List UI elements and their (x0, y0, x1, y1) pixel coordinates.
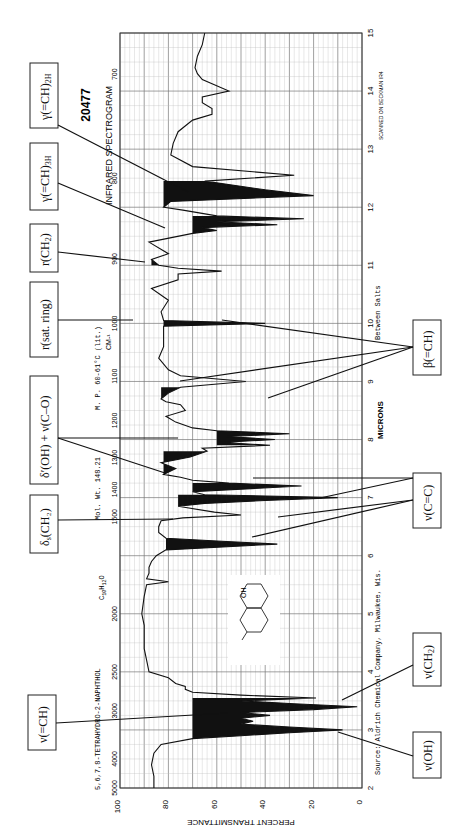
chart-grid (120, 33, 362, 788)
svg-text:r(sat. ring): r(sat. ring) (38, 299, 52, 350)
molecular-formula: C10H12O (98, 575, 108, 600)
transmittance-tick: 20 (307, 799, 316, 808)
wavenumber-tick: 3000 (111, 703, 118, 719)
structure-oh-label: OH (240, 588, 247, 599)
wavenumber-tick: 1400 (111, 482, 118, 498)
annotation-gamma-2h: γ(=CH)2H (30, 63, 58, 128)
transmittance-tick: 100 (113, 799, 122, 813)
annotation-delta-s-ch2: δs(CH₂) (30, 495, 58, 553)
wavenumber-tick: 2500 (111, 664, 118, 680)
svg-text:ν(OH): ν(OH) (421, 740, 435, 771)
annotation-r-sat-ring: r(sat. ring) (30, 282, 58, 357)
transmittance-tick: 60 (210, 799, 219, 808)
wavenumber-tick: 5000 (111, 780, 118, 796)
molecule-structure: OH (228, 575, 280, 665)
svg-text:ν(C=C): ν(C=C) (421, 485, 435, 521)
annotation-nu-oh: ν(OH) (413, 732, 441, 778)
spectrum-chart: 2345678910111213141550004000300025002000… (0, 0, 469, 840)
micron-tick: 13 (366, 144, 375, 153)
wavenumber-tick: 4000 (111, 751, 118, 767)
wavenumber-tick: 700 (111, 68, 118, 80)
spectrum-id: 20477 (79, 88, 93, 122)
annotation-nu-ch2: ν(CH2) (413, 633, 441, 686)
svg-text:δ′(OH) + ν(C–O): δ′(OH) + ν(C–O) (38, 396, 52, 478)
ir-spectrum-figure: 2345678910111213141550004000300025002000… (0, 0, 469, 840)
wavenumber-tick: 2000 (111, 606, 118, 622)
micron-tick: 2 (366, 785, 375, 790)
instrument-note: SCANNED ON BECKMAN IR4 (378, 71, 384, 140)
molecular-weight: Mol. Wt. 148.21 (94, 457, 102, 520)
svg-text:r(CH2): r(CH2) (38, 233, 53, 266)
micron-tick: 9 (366, 379, 375, 384)
transmittance-tick: 0 (355, 799, 364, 804)
compound-name: 5,6,7,8-TETRAHYDRO-2-NAPHTHOL (94, 668, 102, 790)
wavenumber-tick: 1100 (111, 369, 118, 384)
micron-tick: 8 (366, 437, 375, 442)
wavenumber-tick: 1500 (111, 509, 118, 525)
annotation-gamma-3h: γ(=CH)3H (30, 143, 58, 210)
micron-tick: 7 (366, 495, 375, 500)
wavenumber-tick: 1000 (111, 315, 118, 331)
micron-tick: 11 (366, 261, 375, 270)
svg-text:β(=CH): β(=CH) (421, 330, 435, 368)
svg-text:δs(CH₂): δs(CH₂) (38, 508, 53, 546)
annotation-nu-ch: ν(=CH) (28, 695, 56, 750)
transmittance-tick: 40 (258, 799, 267, 808)
micron-tick: 6 (366, 553, 375, 558)
annotation-nu-cc: ν(C=C) (413, 473, 441, 528)
wavenumber-tick: 1200 (111, 412, 118, 428)
chart-title: INFRARED SPECTROGRAM (104, 86, 114, 205)
micron-tick: 14 (366, 86, 375, 95)
annotation-beta-ch: β(=CH) (413, 320, 441, 375)
annotation-r-ch2: r(CH2) (30, 224, 58, 272)
x-axis-label: MICRONS (376, 400, 385, 438)
micron-tick: 15 (366, 28, 375, 37)
sampling-method: Between Salts (374, 285, 382, 340)
micron-tick: 12 (366, 202, 375, 211)
melting-point: M. P. 60-61°C (lit.) (94, 326, 102, 410)
cm-unit-label: CM-¹ (105, 334, 112, 350)
annotation-delta-oh-nu-co: δ′(OH) + ν(C–O) (30, 376, 58, 484)
svg-text:ν(=CH): ν(=CH) (36, 706, 50, 743)
transmittance-tick: 80 (161, 799, 170, 808)
y-axis-label: PERCENT TRANSMITTANCE (187, 818, 295, 827)
